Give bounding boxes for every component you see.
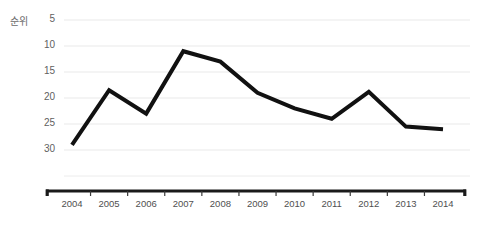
- x-tick-label-2008: 2008: [200, 198, 240, 209]
- y-tick-label-25: 25: [33, 117, 55, 128]
- x-tick-label-2011: 2011: [312, 198, 352, 209]
- y-tick-label-5: 5: [33, 13, 55, 24]
- x-tick-label-2004: 2004: [52, 198, 92, 209]
- y-tick-label-15: 15: [33, 65, 55, 76]
- chart-plot-area: [0, 0, 479, 225]
- x-tick-label-2010: 2010: [275, 198, 315, 209]
- y-tick-label-20: 20: [33, 91, 55, 102]
- x-tick-label-2012: 2012: [349, 198, 389, 209]
- x-tick-label-2006: 2006: [126, 198, 166, 209]
- y-tick-label-30: 30: [33, 143, 55, 154]
- x-tick-label-2007: 2007: [163, 198, 203, 209]
- x-axis: [46, 189, 466, 196]
- y-tick-label-10: 10: [33, 39, 55, 50]
- x-tick-label-2009: 2009: [238, 198, 278, 209]
- rank-line-chart: 순위 51015202530 2004200520062007200820092…: [0, 0, 479, 225]
- x-tick-label-2005: 2005: [89, 198, 129, 209]
- x-tick-label-2014: 2014: [423, 198, 463, 209]
- x-tick-label-2013: 2013: [386, 198, 426, 209]
